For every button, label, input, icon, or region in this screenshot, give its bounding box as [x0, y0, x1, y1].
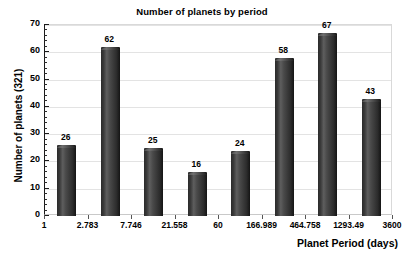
bar-cap	[318, 33, 337, 36]
x-axis-title: Planet Period (days)	[297, 237, 398, 249]
bar-value-label: 26	[61, 133, 70, 142]
plot-area	[44, 24, 392, 215]
y-axis-tick-label: 30	[0, 128, 40, 137]
bar-value-label: 58	[279, 46, 288, 55]
bar[interactable]	[231, 151, 250, 216]
bar-value-label: 24	[235, 139, 244, 148]
x-axis-tick	[175, 215, 176, 219]
y-axis-tick-label: 0	[0, 210, 40, 219]
y-axis-tick-label: 50	[0, 74, 40, 83]
x-axis-tick-label: 464.758	[290, 221, 321, 230]
bar-cap	[275, 58, 294, 61]
bar[interactable]	[275, 58, 294, 216]
bar-chart: Number of planets by period Number of pl…	[0, 0, 404, 262]
x-axis-tick-label: 3600	[383, 221, 402, 230]
y-axis-tick-label: 60	[0, 46, 40, 55]
bar[interactable]	[57, 145, 76, 216]
x-axis-tick-label: 1	[42, 221, 47, 230]
gridline	[45, 52, 391, 53]
gridline	[45, 107, 391, 108]
bar-value-label: 25	[148, 136, 157, 145]
x-axis-tick	[305, 215, 306, 219]
y-axis-tick-label: 20	[0, 155, 40, 164]
x-axis-tick	[88, 215, 89, 219]
x-axis-tick	[218, 215, 219, 219]
bar[interactable]	[144, 148, 163, 216]
gridline	[45, 25, 391, 26]
bar[interactable]	[188, 172, 207, 216]
y-axis-tick-label: 40	[0, 101, 40, 110]
bar-cap	[362, 99, 381, 102]
chart-title: Number of planets by period	[0, 6, 404, 17]
x-axis-tick	[262, 215, 263, 219]
x-axis-tick-label: 7.746	[120, 221, 141, 230]
x-axis-tick	[349, 215, 350, 219]
bar-value-label: 16	[192, 160, 201, 169]
y-axis-tick-label: 10	[0, 183, 40, 192]
bar-cap	[101, 47, 120, 50]
gridline	[45, 189, 391, 190]
y-axis-tick-label: 70	[0, 19, 40, 28]
bar-cap	[144, 148, 163, 151]
bar[interactable]	[318, 33, 337, 216]
x-axis-tick-label: 60	[213, 221, 222, 230]
x-axis-tick	[131, 215, 132, 219]
bar-cap	[188, 172, 207, 175]
x-axis-tick-label: 166.989	[246, 221, 277, 230]
x-axis-tick-label: 1293.49	[333, 221, 364, 230]
gridline	[45, 161, 391, 162]
bar-cap	[231, 151, 250, 154]
x-axis-tick	[392, 215, 393, 219]
x-axis-tick-label: 2.783	[77, 221, 98, 230]
bar[interactable]	[101, 47, 120, 216]
bar-value-label: 67	[322, 21, 331, 30]
bar-value-label: 62	[105, 35, 114, 44]
x-axis-tick	[44, 215, 45, 219]
x-axis-tick-label: 21.558	[162, 221, 188, 230]
bar[interactable]	[362, 99, 381, 216]
bar-value-label: 43	[366, 87, 375, 96]
gridline	[45, 80, 391, 81]
bar-cap	[57, 145, 76, 148]
gridline	[45, 134, 391, 135]
